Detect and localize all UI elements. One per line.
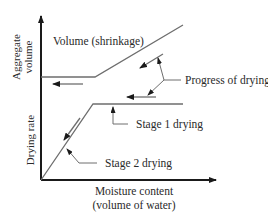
drying-diagram: Aggregate volume Drying rate Moisture co…: [0, 0, 268, 218]
x-label-line2: (volume of water): [92, 199, 175, 212]
stage2-callout: [67, 149, 97, 163]
y-label-aggregate: Aggregate: [10, 34, 22, 80]
progress-label: Progress of drying: [185, 74, 268, 87]
y-label-volume: volume: [22, 40, 34, 73]
volume-curve-label: Volume (shrinkage): [53, 35, 144, 48]
stage1-callout: [113, 107, 128, 124]
progress-arrow-stage2-diagonal: [64, 118, 80, 140]
y-label-drying-rate: Drying rate: [24, 115, 36, 166]
progress-callout: [148, 58, 181, 95]
volume-curve: [41, 25, 183, 77]
stage1-label: Stage 1 drying: [136, 118, 203, 131]
stage2-label: Stage 2 drying: [105, 157, 172, 170]
progress-arrow-top-diagonal: [140, 54, 163, 68]
x-label-line1: Moisture content: [95, 185, 174, 197]
